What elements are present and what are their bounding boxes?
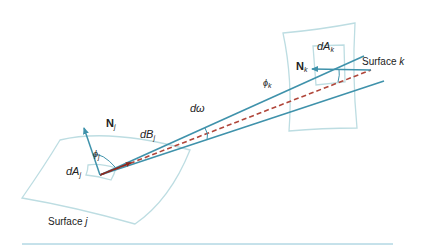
area-element-j	[86, 164, 116, 180]
beam-centerline	[100, 70, 371, 175]
label-angle-j: ϕj	[93, 150, 100, 160]
angle-arc-k	[338, 69, 339, 82]
label-surface-j: Surface j	[48, 217, 87, 227]
surface-j-patch	[22, 136, 190, 224]
label-area-j: dAj	[66, 166, 81, 178]
label-solid-angle: dω	[190, 103, 205, 114]
label-area-k: dAk	[317, 41, 334, 53]
label-angle-k: ϕk	[263, 79, 272, 89]
label-surface-k: Surface k	[362, 57, 404, 67]
label-beam-j: dBj	[140, 129, 155, 141]
beam-upper-edge	[100, 56, 364, 175]
label-normal-k: Nk	[296, 61, 307, 73]
diagram-canvas	[0, 0, 422, 249]
normal-k-arrow	[312, 69, 371, 70]
label-normal-j: Nj	[106, 118, 116, 130]
